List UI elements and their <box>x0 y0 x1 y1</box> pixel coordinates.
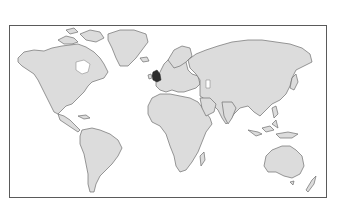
iceland <box>140 57 149 62</box>
australia <box>264 146 304 178</box>
indonesia <box>248 120 298 138</box>
arctic-archipelago <box>58 28 104 44</box>
philippines <box>272 106 278 118</box>
tasmania <box>290 181 294 185</box>
south-america <box>80 128 122 192</box>
scandinavia <box>168 46 192 68</box>
central-america <box>58 114 80 132</box>
caspian-sea <box>206 80 210 88</box>
uk-highlight <box>152 70 161 82</box>
north-america <box>18 44 108 114</box>
madagascar <box>200 152 205 166</box>
new-zealand <box>306 176 316 192</box>
caribbean <box>78 115 90 119</box>
ireland <box>148 74 152 79</box>
world-map <box>0 0 338 217</box>
